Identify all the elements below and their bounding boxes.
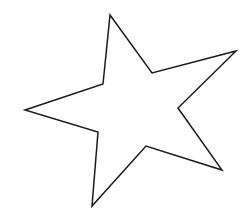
canvas-background bbox=[0, 0, 251, 216]
drawing-canvas bbox=[0, 0, 251, 216]
star-drawing-svg bbox=[0, 0, 251, 216]
